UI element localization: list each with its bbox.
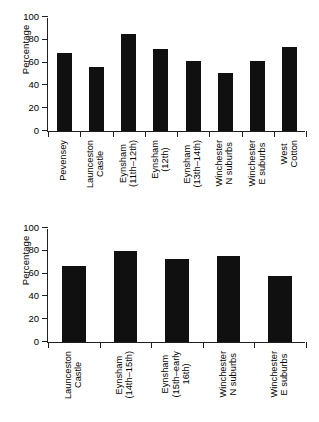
y-tick-label-60: 60 [28, 267, 39, 278]
x-axis-label: Pevensey [47, 140, 79, 210]
x-axis-label-line: (15th–early [171, 351, 181, 398]
y-tick-60: 60 [42, 273, 48, 274]
x-axis-label-line: (12th) [160, 140, 170, 179]
x-axis-label-line: Winchester [214, 140, 224, 187]
y-tick-label-100: 100 [23, 222, 39, 233]
x-tick-4 [177, 131, 178, 137]
y-tick-20: 20 [42, 107, 48, 108]
x-tick-2 [151, 342, 152, 348]
bar [89, 67, 104, 131]
bar [153, 49, 168, 131]
x-axis-label-line: Eynsham [182, 140, 192, 188]
x-axis-label-text: LauncestonCastle [62, 351, 83, 399]
x-axis-label-line: Winchester [246, 140, 256, 187]
x-axis-labels-bottom: LauncestonCastleEynsham(14th–15th)Eynsha… [47, 351, 305, 421]
x-axis-label: WinchesterE suburbs [241, 140, 273, 210]
x-tick-5 [209, 131, 210, 137]
bar [62, 266, 86, 342]
x-axis-label-text: Eynsham(13th–14th) [182, 140, 203, 188]
x-axis-label-line: Eynsham [117, 140, 127, 187]
plot-area-bottom: 020406080100 [47, 229, 305, 343]
bar [186, 61, 201, 131]
x-axis-label: Eynsham(13th–14th) [176, 140, 208, 210]
x-axis-label-line: Winchester [269, 351, 279, 398]
x-axis-label-text: Eynsham(14th–15th) [114, 351, 135, 399]
x-tick-3 [203, 342, 204, 348]
bar [282, 47, 297, 131]
y-tick-label-40: 40 [28, 290, 39, 301]
x-axis-label-text: Eynsham(15th–early16th) [160, 351, 191, 398]
y-tick-label-20: 20 [28, 313, 39, 324]
y-tick-label-80: 80 [28, 244, 39, 255]
x-axis-label-line: (13th–14th) [192, 140, 202, 188]
x-axis-label: Eynsham(12th) [144, 140, 176, 210]
y-tick-80: 80 [42, 39, 48, 40]
x-axis-label-text: WinchesterE suburbs [269, 351, 290, 398]
x-tick-0 [48, 131, 49, 137]
x-tick-4 [254, 342, 255, 348]
bar [114, 251, 138, 342]
y-tick-100: 100 [42, 16, 48, 17]
x-axis-label-line: (11th–12th) [128, 140, 138, 187]
x-axis-label: WestCotton [273, 140, 305, 210]
x-axis-label-text: LauncestonCastle [85, 140, 106, 188]
x-axis-label-line: (14th–15th) [124, 351, 134, 399]
y-tick-100: 100 [42, 227, 48, 228]
y-tick-80: 80 [42, 250, 48, 251]
x-axis-label: WinchesterN suburbs [202, 351, 254, 421]
x-tick-0 [48, 342, 49, 348]
x-axis-label: WinchesterN suburbs [208, 140, 240, 210]
y-tick-label-0: 0 [34, 125, 39, 136]
x-axis-label-text: Pevensey [58, 140, 68, 181]
x-tick-1 [80, 131, 81, 137]
x-tick-7 [274, 131, 275, 137]
bar [250, 61, 265, 131]
x-axis-label: LauncestonCastle [47, 351, 99, 421]
y-tick-label-60: 60 [28, 56, 39, 67]
x-axis-label: WinchesterE suburbs [253, 351, 305, 421]
y-tick-label-0: 0 [34, 336, 39, 347]
bar [57, 53, 72, 131]
plot-area-top: 020406080100 [47, 18, 305, 132]
x-axis-label-line: N suburbs [224, 140, 234, 187]
chart-panel-top: Percentage 020406080100 PevenseyLauncest… [0, 0, 319, 211]
x-axis-label-line: Eynsham [149, 140, 159, 179]
bar [217, 256, 241, 342]
x-axis-label-line: E suburbs [257, 140, 267, 187]
x-axis-label-line: 16th) [181, 351, 191, 398]
x-axis-label-line: Castle [95, 140, 105, 188]
x-tick-5 [306, 342, 307, 348]
y-tick-label-40: 40 [28, 79, 39, 90]
x-axis-label-text: Eynsham(11th–12th) [117, 140, 138, 187]
y-tick-40: 40 [42, 84, 48, 85]
x-axis-label-line: Castle [73, 351, 83, 399]
x-axis-label-line: Cotton [289, 140, 299, 167]
x-tick-6 [242, 131, 243, 137]
y-tick-40: 40 [42, 295, 48, 296]
x-axis-label-text: WinchesterN suburbs [214, 140, 235, 187]
x-axis-label-text: WinchesterE suburbs [246, 140, 267, 187]
x-axis-label-text: WinchesterN suburbs [217, 351, 238, 398]
x-axis-label-line: Eynsham [114, 351, 124, 399]
bar [268, 276, 292, 342]
x-axis-label-text: WestCotton [278, 140, 299, 167]
x-axis-label-line: N suburbs [228, 351, 238, 398]
y-tick-label-20: 20 [28, 102, 39, 113]
chart-panel-bottom: Percentage 020406080100 LauncestonCastle… [0, 211, 319, 422]
x-axis-label: Eynsham(11th–12th) [112, 140, 144, 210]
x-axis-label-line: Pevensey [58, 140, 68, 181]
bar [121, 34, 136, 131]
x-axis-label-line: Winchester [217, 351, 227, 398]
y-tick-label-80: 80 [28, 33, 39, 44]
x-axis-label: Eynsham(14th–15th) [99, 351, 151, 421]
y-tick-20: 20 [42, 318, 48, 319]
figure: Percentage 020406080100 PevenseyLauncest… [0, 0, 319, 422]
x-tick-8 [306, 131, 307, 137]
x-axis-label: LauncestonCastle [79, 140, 111, 210]
x-axis-label: Eynsham(15th–early16th) [150, 351, 202, 421]
x-axis-label-line: Launceston [62, 351, 72, 399]
x-tick-1 [100, 342, 101, 348]
x-axis-label-line: Launceston [85, 140, 95, 188]
x-axis-label-line: West [278, 140, 288, 167]
x-axis-label-line: Eynsham [160, 351, 170, 398]
